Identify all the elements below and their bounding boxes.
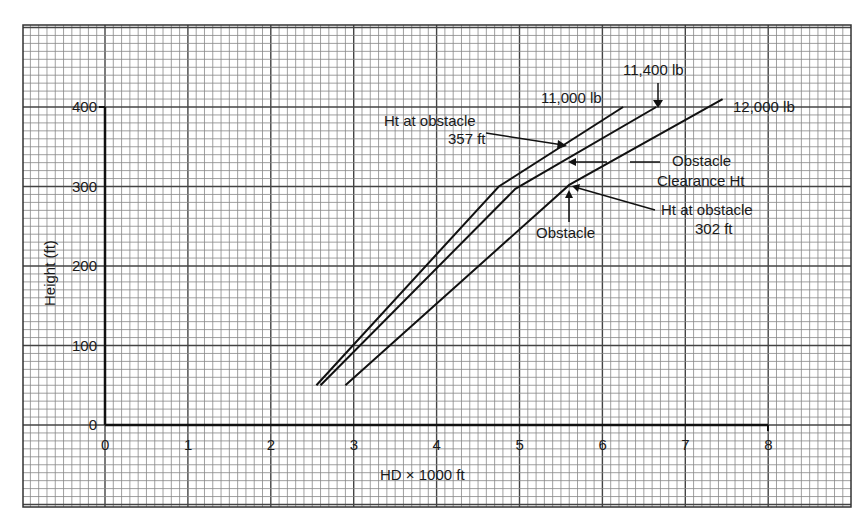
x-tick-label: 8 [764, 436, 772, 453]
y-tick-label: 0 [89, 416, 97, 433]
annotation-ht-357-line1: Ht at obstacle [384, 112, 476, 129]
x-axis-label: HD × 1000 ft [380, 466, 465, 483]
y-tick-label: 100 [72, 337, 97, 354]
label-11000lb: 11,000 lb [541, 89, 602, 106]
y-tick-labels: 0100200300400 [72, 98, 97, 433]
annotation-ht-302-line1: Ht at obstacle [661, 201, 753, 218]
series-line-11400lb [321, 107, 657, 385]
arrowhead-ht-302 [572, 184, 580, 192]
annotation-ht-302-line2: 302 ft [695, 220, 733, 237]
y-tick-label: 300 [72, 178, 97, 195]
y-tick-label: 400 [72, 98, 97, 115]
x-tick-label: 3 [350, 436, 358, 453]
annotation-clearance-line1: Obstacle [672, 152, 731, 169]
x-tick-label: 5 [516, 436, 524, 453]
label-11400lb: 11,400 lb [623, 61, 684, 78]
label-12000lb: 12,000 lb [733, 98, 795, 115]
y-tick-label: 200 [72, 257, 97, 274]
x-tick-labels: 012345678 [101, 436, 773, 453]
x-tick-label: 2 [267, 436, 275, 453]
annotation-obstacle: Obstacle [536, 224, 595, 241]
x-tick-label: 7 [681, 436, 689, 453]
x-tick-label: 0 [101, 436, 109, 453]
arrowhead-obstacle [565, 190, 573, 198]
annotation-ht-357-line2: 357 ft [448, 130, 486, 147]
y-axis-label: Height (ft) [41, 240, 58, 306]
x-tick-label: 4 [433, 436, 441, 453]
chart-canvas: 0100200300400 012345678 HD × 1000 ft Hei… [0, 0, 861, 532]
x-tick-label: 6 [598, 436, 606, 453]
x-tick-label: 1 [184, 436, 192, 453]
annotation-clearance-line2: Clearance Ht [657, 172, 745, 189]
graph-paper-grid [23, 25, 851, 507]
